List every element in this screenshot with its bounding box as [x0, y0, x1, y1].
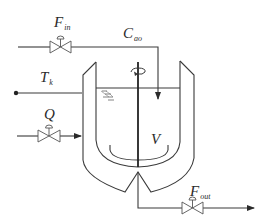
stirrer-icon [131, 62, 145, 167]
label-v: V [151, 131, 160, 147]
inlet-feed-line [18, 47, 158, 99]
label-t-k: Tk [40, 69, 53, 85]
heat-valve-icon [38, 125, 60, 142]
temperature-terminal-dot [14, 91, 18, 95]
label-q: Q [44, 106, 55, 122]
label-f-in: Fin [54, 14, 70, 30]
label-c-ao: Cao [123, 25, 142, 41]
label-f-out: Fout [190, 183, 210, 199]
inlet-valve-icon [50, 36, 71, 53]
cstr-diagram: Fin Cao Tk Q V Fout [0, 0, 270, 224]
